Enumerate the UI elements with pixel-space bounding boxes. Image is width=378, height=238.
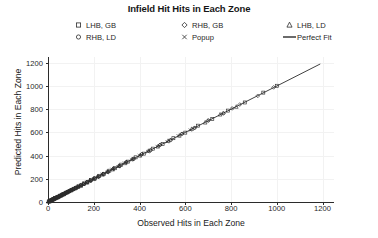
chart-legend: LHB, GBRHB, GBLHB, LDRHB, LDPopupPerfect… (62, 20, 372, 44)
x-tick-label: 800 (225, 204, 238, 213)
square-marker (76, 23, 80, 27)
y-tick-label: 400 (30, 151, 43, 160)
x-axis-line (48, 202, 334, 203)
y-tick-mark (46, 132, 49, 133)
diamond-marker (182, 22, 187, 27)
x-marker (178, 32, 191, 42)
y-tick-mark (46, 86, 49, 87)
y-axis-line (48, 57, 49, 202)
x-marker (182, 35, 186, 39)
y-tick-label: 800 (30, 105, 43, 114)
legend-item-popup[interactable]: Popup (178, 32, 214, 42)
y-tick-mark (46, 179, 49, 180)
legend-label: Popup (191, 33, 214, 42)
legend-item-rhb-gb[interactable]: RHB, GB (178, 20, 223, 30)
y-axis-label: Predicted Hits in Each Zone (13, 42, 23, 202)
x-tick-label: 1200 (314, 204, 331, 213)
circle-marker (76, 35, 80, 39)
y-tick-mark (46, 156, 49, 157)
legend-item-rhb-ld[interactable]: RHB, LD (72, 32, 116, 42)
y-tick-label: 1200 (26, 58, 43, 67)
legend-label: LHB, LD (296, 21, 326, 30)
x-tick-label: 400 (133, 204, 146, 213)
legend-item-perfect-fit[interactable]: Perfect Fit (283, 32, 332, 42)
legend-item-lhb-ld[interactable]: LHB, LD (283, 20, 326, 30)
diamond-marker (178, 20, 191, 30)
triangle-marker (283, 20, 296, 30)
x-tick-label: 200 (87, 204, 100, 213)
y-tick-label: 200 (30, 174, 43, 183)
legend-item-lhb-gb[interactable]: LHB, GB (72, 20, 116, 30)
chart-title: Infield Hit Hits in Each Zone (0, 3, 378, 14)
x-tick-label: 600 (179, 204, 192, 213)
circle-marker (72, 32, 85, 42)
legend-label: LHB, GB (85, 21, 116, 30)
x-tick-label: 0 (46, 204, 50, 213)
x-tick-label: 1000 (268, 204, 285, 213)
line-marker (283, 32, 296, 42)
legend-label: RHB, GB (191, 21, 223, 30)
y-tick-mark (46, 63, 49, 64)
triangle-marker (287, 22, 292, 27)
data-points-layer (48, 57, 334, 202)
x-axis-label: Observed Hits in Each Zone (48, 218, 334, 228)
y-tick-mark (46, 202, 49, 203)
y-tick-label: 0 (39, 198, 43, 207)
legend-label: Perfect Fit (296, 33, 332, 42)
y-tick-label: 600 (30, 128, 43, 137)
y-tick-mark (46, 109, 49, 110)
plot-area: 0200400600800100012000200400600800100012… (48, 57, 334, 202)
square-marker (72, 20, 85, 30)
y-tick-label: 1000 (26, 82, 43, 91)
legend-label: RHB, LD (85, 33, 116, 42)
chart-figure: Infield Hit Hits in Each Zone LHB, GBRHB… (0, 0, 378, 238)
